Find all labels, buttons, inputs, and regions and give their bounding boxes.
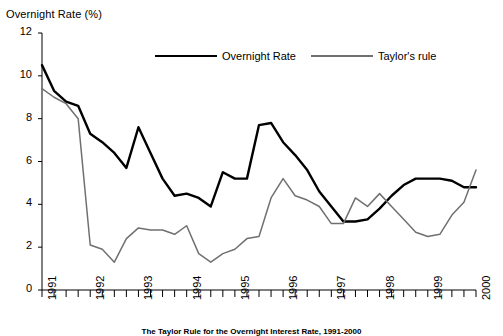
x-tick-label: 1996 (287, 276, 299, 300)
x-tick-label: 1998 (384, 276, 396, 300)
axes-group (38, 33, 476, 297)
x-tick-label: 1991 (46, 276, 58, 300)
y-tick-label: 6 (10, 154, 32, 166)
x-tick-label: 1997 (335, 276, 347, 300)
legend-swatch-1 (311, 55, 373, 57)
x-tick-label: 1995 (239, 276, 251, 300)
x-tick-label: 1992 (94, 276, 106, 300)
y-tick-label: 8 (10, 111, 32, 123)
y-tick-label: 10 (10, 68, 32, 80)
series-line-1 (42, 89, 476, 262)
x-tick-label: 1993 (142, 276, 154, 300)
y-tick-label: 4 (10, 196, 32, 208)
x-tick-label: 2000 (480, 276, 492, 300)
series-line-0 (42, 65, 476, 221)
x-tick-label: 1999 (432, 276, 444, 300)
series-group (42, 65, 476, 262)
legend-label-1: Taylor's rule (378, 50, 436, 62)
y-tick-label: 2 (10, 239, 32, 251)
legend-label-0: Overnight Rate (222, 50, 296, 62)
y-tick-label: 0 (10, 282, 32, 294)
y-tick-label: 12 (10, 25, 32, 37)
figure-caption: The Taylor Rule for the Overnight Intere… (0, 327, 503, 336)
x-tick-label: 1994 (191, 276, 203, 300)
legend-swatch-0 (155, 55, 217, 57)
